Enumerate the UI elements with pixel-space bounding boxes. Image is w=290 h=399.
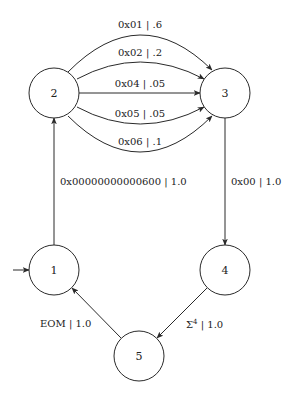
edge-2-3-0x02 <box>77 62 204 79</box>
node-5: 5 <box>114 331 164 381</box>
edge-label-1-2: 0x00000000000600 | 1.0 <box>60 176 187 188</box>
edge-label-0x02: 0x02 | .2 <box>118 47 162 59</box>
node-1: 1 <box>29 245 79 295</box>
edge-label-0x05: 0x05 | .05 <box>115 108 165 120</box>
edge-label-3-4: 0x00 | 1.0 <box>231 176 281 188</box>
edge-5-1 <box>72 288 121 338</box>
svg-text:1: 1 <box>51 264 58 277</box>
node-2: 2 <box>29 68 79 118</box>
node-3: 3 <box>200 68 250 118</box>
edge-label-0x01: 0x01 | .6 <box>118 19 162 31</box>
edge-label-0x06: 0x06 | .1 <box>118 136 162 148</box>
svg-text:5: 5 <box>136 350 143 363</box>
edge-4-5 <box>157 288 207 338</box>
svg-text:4: 4 <box>222 264 229 277</box>
svg-text:2: 2 <box>51 87 58 100</box>
edge-label-4-5: Σ4 | 1.0 <box>186 318 223 331</box>
edge-label-5-1: EOM | 1.0 <box>40 318 91 330</box>
edge-label-0x04: 0x04 | .05 <box>115 78 165 90</box>
node-4: 4 <box>200 245 250 295</box>
svg-text:3: 3 <box>222 87 229 100</box>
state-diagram: 0x01 | .6 0x02 | .2 0x04 | .05 0x05 | .0… <box>0 0 290 399</box>
